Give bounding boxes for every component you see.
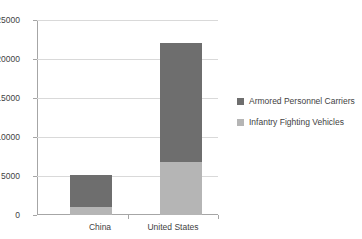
legend-item-infantry-fighting-vehicles[interactable]: Infantry Fighting Vehicles (237, 117, 362, 128)
bar-united-states[interactable] (160, 43, 202, 215)
y-tick-label-0: 0 (0, 211, 20, 220)
bar-segment-united-states-infantry-fighting-vehicles[interactable] (160, 162, 202, 215)
x-tick-mark-divider (128, 215, 129, 219)
y-tick-label-15000: 15000 (0, 94, 20, 103)
bar-segment-china-armored-personnel-carriers[interactable] (70, 175, 112, 207)
y-tick-label-5000: 5000 (0, 172, 20, 181)
gridline-25000 (37, 20, 218, 21)
legend-label-armored-personnel-carriers: Armored Personnel Carriers (249, 96, 355, 107)
legend-item-armored-personnel-carriers[interactable]: Armored Personnel Carriers (237, 96, 362, 107)
y-tick-label-25000: 25000 (0, 16, 20, 25)
legend-label-infantry-fighting-vehicles: Infantry Fighting Vehicles (249, 117, 344, 128)
y-tick-mark-0 (33, 215, 37, 216)
y-tick-label-20000: 20000 (0, 55, 20, 64)
legend-swatch-icon-infantry-fighting-vehicles (237, 119, 244, 126)
y-tick-label-10000: 10000 (0, 133, 20, 142)
bar-segment-china-infantry-fighting-vehicles[interactable] (70, 207, 112, 215)
x-tick-mark-end (218, 215, 219, 219)
x-tick-label-united-states: United States (128, 222, 218, 232)
stacked-bar-chart: 25000 20000 15000 10000 5000 0 (0, 0, 362, 239)
legend-swatch-icon-armored-personnel-carriers (237, 98, 244, 105)
bar-china[interactable] (70, 175, 112, 215)
bar-segment-united-states-armored-personnel-carriers[interactable] (160, 43, 202, 162)
plot-area (37, 20, 218, 215)
chart-legend: Armored Personnel Carriers Infantry Figh… (237, 96, 362, 138)
